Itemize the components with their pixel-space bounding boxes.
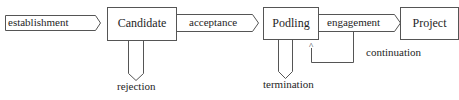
termination-arrow bbox=[279, 40, 293, 79]
podling-label: Podling bbox=[263, 16, 319, 30]
continuation-loop bbox=[312, 32, 354, 63]
termination-label: termination bbox=[263, 78, 314, 90]
engagement-label: engagement bbox=[327, 16, 380, 28]
project-label: Project bbox=[400, 16, 459, 30]
continuation-marker-icon: ^ bbox=[309, 40, 313, 52]
rejection-label: rejection bbox=[117, 80, 155, 92]
candidate-label: Candidate bbox=[107, 16, 177, 30]
establishment-label: establishment bbox=[8, 16, 69, 28]
acceptance-label: acceptance bbox=[189, 16, 237, 28]
continuation-label: continuation bbox=[366, 46, 421, 58]
rejection-arrow bbox=[129, 41, 144, 81]
